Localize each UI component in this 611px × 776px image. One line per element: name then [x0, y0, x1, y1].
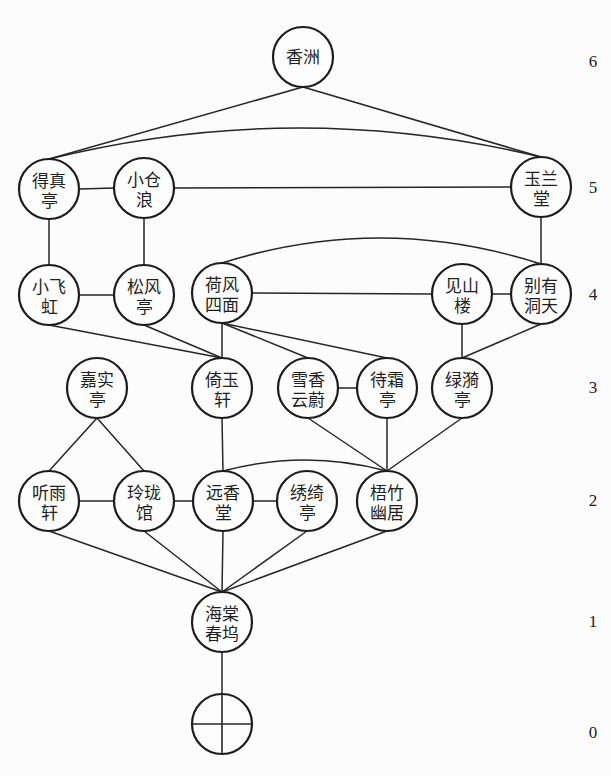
node-entrance: [192, 694, 252, 754]
node-tingyuxuan: 听雨轩: [19, 471, 79, 531]
node-label-line: 亭: [454, 390, 471, 410]
edge-yiyuxuan-to-yuanxiangtang: [222, 418, 223, 471]
level-label-3: 3: [589, 378, 598, 397]
node-label-line: 待霜: [370, 370, 404, 390]
level-label-6: 6: [589, 52, 598, 71]
edge-dezhenting-to-xiaocanglang: [79, 188, 114, 189]
level-label-5: 5: [589, 178, 598, 197]
node-label-line: 洞天: [524, 296, 558, 316]
edge-dezhenting-to-yulantang: [49, 128, 541, 159]
node-label-line: 绣绮: [290, 483, 324, 503]
node-jianshanlou: 见山楼: [432, 264, 492, 324]
node-label-line: 轩: [41, 503, 58, 523]
node-label-line: 得真: [32, 171, 66, 191]
node-label-line: 春坞: [205, 624, 239, 644]
node-daishuangting: 待霜亭: [357, 358, 417, 418]
edge-jiashiting-to-linglongguan: [97, 418, 144, 471]
node-label-line: 海棠: [205, 604, 239, 624]
node-label-line: 荷风: [205, 275, 239, 295]
node-lvyiting: 绿漪亭: [432, 358, 492, 418]
node-label-line: 玲珑: [127, 483, 161, 503]
level-label-0: 0: [589, 723, 598, 742]
node-xuexiangyunwei: 雪香云蔚: [278, 358, 338, 418]
edge-yuanxiangtang-to-haitangchunwu: [222, 531, 223, 592]
edge-hefengsimian-to-jianshanlou: [252, 293, 432, 294]
node-label-line: 嘉实: [80, 370, 114, 390]
node-label-line: 幽居: [370, 503, 404, 523]
level-label-2: 2: [589, 491, 598, 510]
node-label-line: 见山: [445, 276, 479, 296]
node-label-line: 四面: [205, 295, 239, 315]
node-xiuqiting: 绣绮亭: [277, 471, 337, 531]
node-yiyuxuan: 倚玉轩: [192, 358, 252, 418]
node-label-line: 梧竹: [370, 483, 404, 503]
node-label-line: 云蔚: [291, 390, 325, 410]
node-label-line: 馆: [136, 503, 153, 523]
edge-tingyuxuan-to-haitangchunwu: [49, 531, 222, 592]
garden-route-diagram: 香洲得真亭小仓浪玉兰堂小飞虹松风亭荷风四面见山楼别有洞天嘉实亭倚玉轩雪香云蔚待霜…: [0, 0, 611, 776]
node-wuzhuyouju: 梧竹幽居: [357, 471, 417, 531]
node-yulantang: 玉兰堂: [511, 157, 571, 217]
node-label-line: 别有: [524, 276, 558, 296]
node-songfengting: 松风亭: [114, 265, 174, 325]
edge-linglongguan-to-haitangchunwu: [144, 531, 222, 592]
node-label-line: 亭: [89, 390, 106, 410]
node-label-line: 听雨: [32, 483, 66, 503]
node-label-line: 轩: [214, 390, 231, 410]
node-label-line: 虹: [41, 297, 58, 317]
node-label-line: 堂: [533, 189, 550, 209]
node-xiaocanglang: 小仓浪: [114, 158, 174, 218]
node-label-line: 远香: [206, 483, 240, 503]
edge-lvyiting-to-wuzhuyouju: [387, 418, 462, 471]
node-dezhenting: 得真亭: [19, 159, 79, 219]
node-xiangzhou: 香洲: [273, 27, 333, 87]
edge-wuzhuyouju-to-haitangchunwu: [222, 531, 387, 592]
edge-hefengsimian-to-daishuangting: [222, 323, 387, 358]
node-bieyoudongtian: 别有洞天: [511, 264, 571, 324]
node-label-line: 松风: [127, 277, 161, 297]
node-label-line: 亭: [299, 503, 316, 523]
level-axis: 6543210: [589, 52, 598, 742]
edge-songfengting-to-yiyuxuan: [144, 325, 222, 358]
edge-xiangzhou-to-dezhenting: [49, 87, 303, 159]
node-haitangchunwu: 海棠春坞: [192, 592, 252, 652]
edge-jiashiting-to-tingyuxuan: [49, 418, 97, 471]
node-linglongguan: 玲珑馆: [114, 471, 174, 531]
edge-hefengsimian-to-bieyoudongtian: [222, 238, 541, 264]
node-label-line: 小飞: [32, 277, 66, 297]
level-label-1: 1: [589, 612, 598, 631]
node-label-line: 亭: [379, 390, 396, 410]
edge-hefengsimian-to-xuexiangyunwei: [222, 323, 308, 358]
edge-yuanxiangtang-to-wuzhuyouju: [223, 460, 387, 471]
edge-xiangzhou-to-yulantang: [303, 87, 541, 157]
node-yuanxiangtang: 远香堂: [193, 471, 253, 531]
edge-xiuqiting-to-haitangchunwu: [222, 531, 307, 592]
node-hefengsimian: 荷风四面: [192, 263, 252, 323]
node-label-line: 浪: [136, 190, 153, 210]
edge-xiaocanglang-to-yulantang: [174, 187, 511, 188]
node-jiashiting: 嘉实亭: [67, 358, 127, 418]
node-label-line: 小仓: [127, 170, 161, 190]
node-label-line: 雪香: [291, 370, 325, 390]
edge-xiaofeihong-to-yiyuxuan: [49, 325, 222, 358]
node-label-line: 绿漪: [445, 370, 479, 390]
node-label-line: 亭: [136, 297, 153, 317]
node-label-line: 香洲: [286, 47, 320, 67]
node-label-line: 亭: [41, 191, 58, 211]
edge-bieyoudongtian-to-lvyiting: [462, 324, 541, 358]
diagram-canvas: 香洲得真亭小仓浪玉兰堂小飞虹松风亭荷风四面见山楼别有洞天嘉实亭倚玉轩雪香云蔚待霜…: [0, 0, 611, 776]
node-label-line: 玉兰: [524, 169, 558, 189]
level-label-4: 4: [589, 285, 598, 304]
node-label-line: 楼: [454, 296, 471, 316]
node-xiaofeihong: 小飞虹: [19, 265, 79, 325]
node-label-line: 倚玉: [205, 370, 239, 390]
node-label-line: 堂: [215, 503, 232, 523]
nodes-layer: 香洲得真亭小仓浪玉兰堂小飞虹松风亭荷风四面见山楼别有洞天嘉实亭倚玉轩雪香云蔚待霜…: [19, 27, 571, 754]
